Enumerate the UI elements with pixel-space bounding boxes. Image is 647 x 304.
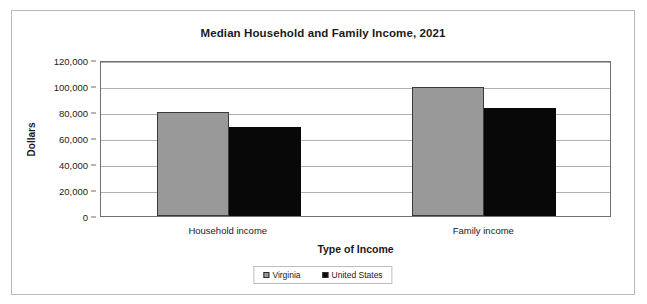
legend-entry: Virginia	[263, 270, 300, 280]
y-tick-label: 40,000	[59, 160, 88, 171]
y-tick-mark	[91, 191, 96, 192]
y-tick-label: 100,000	[54, 82, 88, 93]
gridline	[101, 62, 610, 63]
legend-label: Virginia	[272, 270, 300, 280]
y-tick-mark	[91, 87, 96, 88]
y-tick-label: 80,000	[59, 108, 88, 119]
x-axis-title: Type of Income	[100, 243, 611, 255]
chart-figure: Median Household and Family Income, 2021…	[11, 10, 635, 295]
gridline	[101, 88, 610, 89]
y-tick-label: 20,000	[59, 186, 88, 197]
virginia-swatch-icon	[263, 272, 269, 278]
bar-united-states-family-income	[484, 108, 556, 216]
legend-label: United States	[332, 270, 383, 280]
plot-area	[100, 61, 611, 217]
y-tick-label: 120,000	[54, 56, 88, 67]
legend-entry: United States	[323, 270, 383, 280]
chart-legend: VirginiaUnited States	[253, 266, 392, 284]
y-tick-mark	[91, 61, 96, 62]
bar-virginia-family-income	[412, 87, 484, 216]
united-states-swatch-icon	[323, 272, 329, 278]
bar-united-states-household-income	[229, 127, 301, 216]
y-tick-mark	[91, 165, 96, 166]
y-tick-label: 60,000	[59, 134, 88, 145]
y-axis-tick-labels: 020,00040,00060,00080,000100,000120,000	[12, 61, 96, 217]
y-tick-mark	[91, 113, 96, 114]
y-tick-mark	[91, 139, 96, 140]
bar-virginia-household-income	[157, 112, 229, 216]
chart-title: Median Household and Family Income, 2021	[12, 27, 634, 39]
y-tick-label: 0	[83, 212, 88, 223]
x-tick-label: Family income	[453, 225, 514, 236]
y-tick-mark	[91, 217, 96, 218]
x-tick-label: Household income	[188, 225, 267, 236]
